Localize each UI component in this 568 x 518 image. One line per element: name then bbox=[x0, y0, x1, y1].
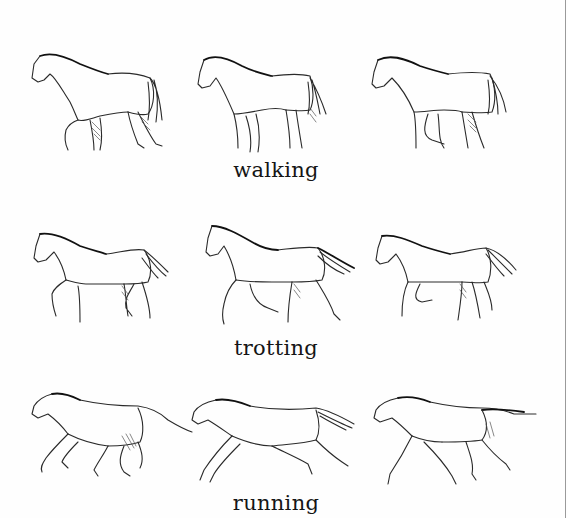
running-label: running bbox=[176, 491, 376, 515]
walking-horse-2 bbox=[198, 52, 343, 157]
running-horse-1 bbox=[28, 390, 188, 485]
walking-label: walking bbox=[176, 158, 376, 182]
trotting-label: trotting bbox=[176, 336, 376, 360]
running-horse-3 bbox=[370, 394, 545, 494]
trotting-horse-3 bbox=[376, 230, 536, 335]
running-row: running bbox=[0, 370, 565, 518]
walking-horse-1 bbox=[30, 50, 175, 155]
trotting-row: trotting bbox=[0, 200, 565, 370]
running-horse-2 bbox=[188, 396, 363, 491]
trotting-horse-2 bbox=[204, 224, 364, 334]
trotting-horse-1 bbox=[34, 230, 184, 335]
gait-illustration: walking bbox=[0, 0, 568, 518]
right-border-line bbox=[565, 0, 566, 518]
walking-row: walking bbox=[0, 0, 565, 195]
walking-horse-3 bbox=[372, 52, 522, 157]
